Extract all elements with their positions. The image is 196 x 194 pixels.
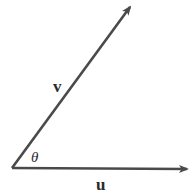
vector-v-label: v (53, 77, 62, 96)
vector-diagram: v θ u (0, 0, 196, 194)
vector-u-arrow (12, 168, 187, 169)
vector-u-label: u (96, 175, 105, 194)
vector-v-arrow (12, 7, 130, 168)
angle-theta-label: θ (31, 149, 39, 165)
